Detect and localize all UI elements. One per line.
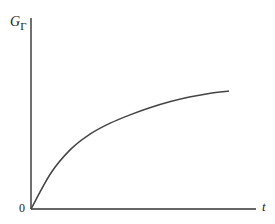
origin-label: 0	[19, 201, 25, 216]
chart-canvas	[0, 0, 275, 224]
x-axis-label: t	[262, 199, 266, 215]
growth-curve	[31, 91, 229, 209]
y-axis-label: GΓ	[10, 14, 26, 32]
